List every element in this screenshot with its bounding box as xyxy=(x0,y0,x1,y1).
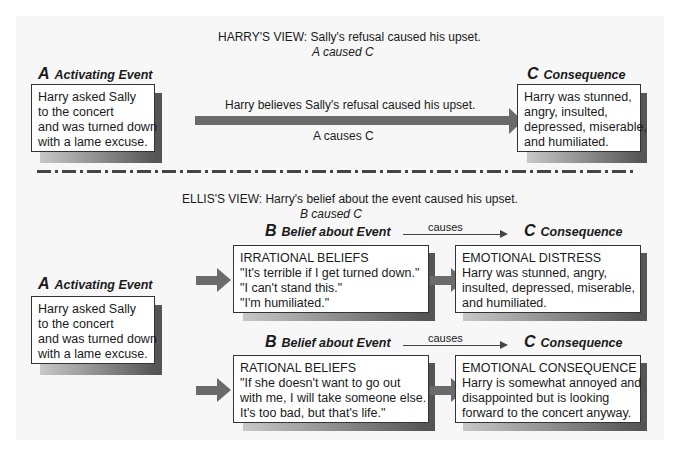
rational-beliefs-box: RATIONAL BELIEFS "If she doesn't want to… xyxy=(233,355,429,423)
box-heading: EMOTIONAL CONSEQUENCE xyxy=(462,361,634,376)
irrational-b-heading: BBelief about Event xyxy=(265,222,391,240)
a-heading-text: Activating Event xyxy=(55,278,153,292)
arrow-head-icon xyxy=(217,378,231,402)
harry-view-title: HARRY'S VIEW: Sally's refusal caused his… xyxy=(218,30,481,44)
b-heading-text: Belief about Event xyxy=(282,225,391,239)
box-line: with me, I will take someone else. xyxy=(240,391,422,406)
harry-arrow-top-text: Harry believes Sally's refusal caused hi… xyxy=(225,98,475,112)
box-line: "I'm humiliated." xyxy=(240,296,422,311)
emotional-consequence-box: EMOTIONAL CONSEQUENCE Harry is somewhat … xyxy=(455,355,641,423)
ellis-a-heading: AActivating Event xyxy=(38,275,153,293)
box-line: to the concert xyxy=(38,105,148,120)
box-line: and was turned down xyxy=(38,332,148,347)
box-line: depressed, miserable, xyxy=(524,120,634,135)
box-line: and was turned down xyxy=(38,120,148,135)
ellis-activating-event-box: Harry asked Sally to the concert and was… xyxy=(31,296,155,364)
box-line: forward to the concert anyway. xyxy=(462,406,634,421)
box-line: disappointed but is looking xyxy=(462,391,634,406)
box-line: Harry was stunned, angry, xyxy=(462,266,634,281)
box-line: and humiliated. xyxy=(524,135,634,150)
box-line: to the concert xyxy=(38,317,148,332)
rational-c-heading: CConsequence xyxy=(524,333,623,351)
b-heading-text: Belief about Event xyxy=(282,336,391,350)
harry-activating-event-box: Harry asked Sally to the concert and was… xyxy=(31,84,155,152)
b-letter: B xyxy=(265,333,277,350)
arrow-to-irrational xyxy=(196,276,218,285)
arrow-head-icon xyxy=(217,268,231,292)
c-letter: C xyxy=(527,65,539,82)
harry-c-heading: CConsequence xyxy=(527,65,626,83)
c-letter: C xyxy=(524,333,536,350)
harry-arrow-bottom-text: A causes C xyxy=(313,129,374,143)
harry-consequence-box: Harry was stunned, angry, insulted, depr… xyxy=(517,84,641,152)
a-letter: A xyxy=(38,275,50,292)
harry-big-arrow xyxy=(195,116,510,125)
box-line: "It's terrible if I get turned down." xyxy=(240,266,422,281)
box-line: with a lame excuse. xyxy=(38,135,148,150)
rational-b-heading: BBelief about Event xyxy=(265,333,391,351)
box-line: Harry asked Sally xyxy=(38,302,148,317)
box-heading: IRRATIONAL BELIEFS xyxy=(240,251,422,266)
a-letter: A xyxy=(38,65,50,82)
box-line: and humiliated. xyxy=(462,296,634,311)
box-line: angry, insulted, xyxy=(524,105,634,120)
box-line: "If she doesn't want to go out xyxy=(240,376,422,391)
irrational-c-heading: CConsequence xyxy=(524,222,623,240)
c-heading-text: Consequence xyxy=(541,336,623,350)
causes-arrow-icon xyxy=(500,341,508,349)
irrational-causes-label: causes xyxy=(428,220,463,234)
c-heading-text: Consequence xyxy=(541,225,623,239)
harry-view-formula: A caused C xyxy=(312,45,374,59)
ellis-view-formula: B caused C xyxy=(300,207,362,221)
box-line: "I can't stand this." xyxy=(240,281,422,296)
c-letter: C xyxy=(524,222,536,239)
box-line: Harry is somewhat annoyed and xyxy=(462,376,634,391)
emotional-distress-box: EMOTIONAL DISTRESS Harry was stunned, an… xyxy=(455,245,641,313)
box-line: with a lame excuse. xyxy=(38,347,148,362)
box-heading: RATIONAL BELIEFS xyxy=(240,361,422,376)
a-heading-text: Activating Event xyxy=(55,68,153,82)
box-line: It's too bad, but that's life." xyxy=(240,406,422,421)
causes-line xyxy=(403,345,503,346)
arrow-to-consequence xyxy=(430,386,452,395)
harry-a-heading: AActivating Event xyxy=(38,65,153,83)
ellis-view-title: ELLIS'S VIEW: Harry's belief about the e… xyxy=(182,192,518,206)
causes-arrow-icon xyxy=(500,230,508,238)
arrow-to-distress xyxy=(430,276,452,285)
c-heading-text: Consequence xyxy=(544,68,626,82)
causes-line xyxy=(403,234,503,235)
box-line: Harry was stunned, xyxy=(524,90,634,105)
rational-causes-label: causes xyxy=(428,331,463,345)
irrational-beliefs-box: IRRATIONAL BELIEFS "It's terrible if I g… xyxy=(233,245,429,313)
box-heading: EMOTIONAL DISTRESS xyxy=(462,251,634,266)
box-line: insulted, depressed, miserable, xyxy=(462,281,634,296)
arrow-to-rational xyxy=(196,386,218,395)
box-line: Harry asked Sally xyxy=(38,90,148,105)
b-letter: B xyxy=(265,222,277,239)
section-divider xyxy=(37,170,637,173)
